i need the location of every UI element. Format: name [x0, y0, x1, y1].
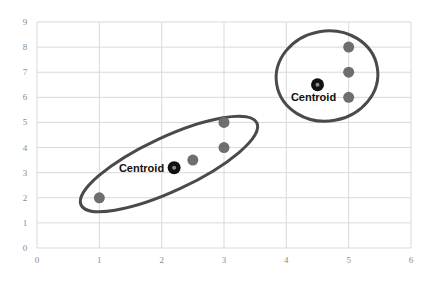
grid-lines	[37, 22, 411, 248]
data-point	[219, 142, 230, 153]
x-tick-label: 3	[222, 255, 227, 265]
data-point	[219, 117, 230, 128]
y-tick-label: 5	[23, 117, 28, 127]
x-tick-label: 1	[97, 255, 102, 265]
centroid-label: Centroid	[291, 91, 336, 103]
y-tick-label: 0	[23, 243, 28, 253]
x-tick-label: 0	[35, 255, 40, 265]
y-tick-label: 9	[23, 17, 28, 27]
x-tick-label: 5	[346, 255, 351, 265]
centroid-label: Centroid	[119, 162, 164, 174]
y-tick-label: 1	[23, 218, 28, 228]
y-tick-label: 2	[23, 193, 28, 203]
x-tick-label: 2	[159, 255, 164, 265]
axis-ticks: 01234560123456789	[23, 17, 414, 265]
x-tick-label: 6	[409, 255, 414, 265]
data-point	[343, 42, 354, 53]
data-point	[187, 155, 198, 166]
y-tick-label: 7	[23, 67, 28, 77]
y-tick-label: 3	[23, 168, 28, 178]
y-tick-label: 8	[23, 42, 28, 52]
y-tick-label: 6	[23, 92, 28, 102]
y-tick-label: 4	[23, 143, 28, 153]
x-tick-label: 4	[284, 255, 289, 265]
centroid-core	[316, 83, 320, 87]
data-point	[343, 92, 354, 103]
scatter-chart: 01234560123456789 CentroidCentroid	[0, 0, 431, 281]
centroid-core	[172, 166, 176, 170]
data-point	[343, 67, 354, 78]
data-point	[94, 192, 105, 203]
